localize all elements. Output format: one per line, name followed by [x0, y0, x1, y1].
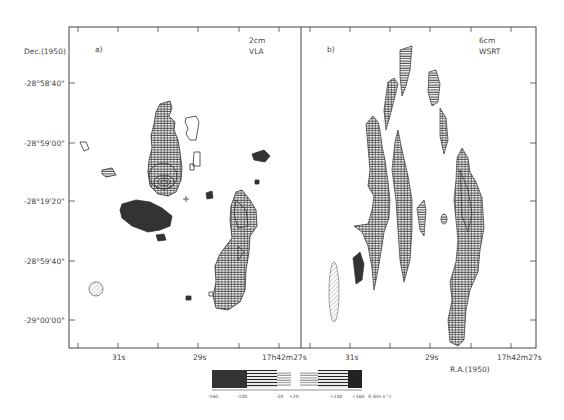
scale-tick-label: +160	[352, 394, 364, 399]
y-tick-label: -28°58'40"	[24, 79, 65, 88]
x-axis-title: R.A.(1950)	[450, 365, 490, 374]
x-tick-label: 31s	[345, 353, 359, 362]
panel-b-instrument: WSRT	[479, 47, 501, 56]
velocity-scale-bar	[212, 370, 362, 390]
panel-b-band: 6cm	[479, 36, 495, 45]
x-axis-ticks-b	[310, 27, 511, 348]
x-tick-label: 31s	[112, 353, 126, 362]
y-axis-ticks-right	[530, 83, 536, 320]
y-tick-label: -28°59'00"	[24, 139, 65, 148]
y-axis-ticks-left	[69, 83, 75, 320]
panel-a-band: 2cm	[249, 36, 265, 45]
scale-unit-label: V (km s⁻¹)	[368, 394, 391, 399]
panel-a-emission	[80, 101, 270, 310]
scale-tick-label: -100	[237, 394, 247, 399]
figure: Dec.(1950) -28°58'40" -28°59'00" -28°19'…	[0, 0, 564, 420]
x-tick-label: 17h42m27s	[262, 353, 307, 362]
y-tick-label: -28°19'20"	[24, 197, 65, 206]
y-tick-label: -29°00'00"	[24, 316, 65, 325]
panel-a-instrument: VLA	[249, 47, 264, 56]
panel-a-label: a)	[95, 45, 103, 54]
panel-b-emission	[329, 46, 484, 346]
scale-tick-label: +100	[330, 394, 342, 399]
x-tick-label: 29s	[193, 353, 207, 362]
x-tick-label: 29s	[425, 353, 439, 362]
x-axis-ticks-a	[78, 27, 279, 348]
x-tick-label: 17h42m27s	[497, 353, 542, 362]
scale-tick-label: -20	[276, 394, 283, 399]
scale-tick-label: -160	[208, 394, 218, 399]
y-axis-title: Dec.(1950)	[24, 47, 66, 56]
scale-tick-label: +20	[289, 394, 299, 399]
panel-b-label: b)	[327, 45, 335, 54]
y-tick-label: -28°59'40"	[24, 257, 65, 266]
